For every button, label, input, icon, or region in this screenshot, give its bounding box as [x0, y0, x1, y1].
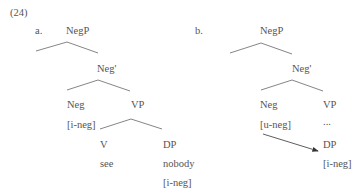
negp-branches-b	[230, 43, 292, 54]
tree-a-dp: DP	[163, 139, 176, 151]
negbar-branches-b	[261, 80, 323, 91]
tree-b-object-feature: [i-neg]	[323, 158, 352, 170]
tree-b-label: b.	[195, 25, 203, 37]
tree-b-negbar: Neg'	[292, 63, 311, 75]
agree-arrow	[263, 134, 318, 151]
negbar-branches-a	[67, 80, 130, 91]
tree-a-verb-word: see	[100, 158, 113, 170]
tree-b-dp: DP	[323, 139, 336, 151]
tree-a-negp: NegP	[66, 25, 89, 37]
tree-b-vp: VP	[323, 99, 336, 111]
tree-a-neg-feature: [i-neg]	[67, 119, 96, 131]
tree-b-ellipsis: ...	[323, 116, 331, 128]
tree-a-neg: Neg	[67, 99, 85, 111]
tree-a-vp: VP	[131, 99, 144, 111]
tree-b-neg-feature: [u-neg]	[260, 119, 291, 131]
tree-b-negp: NegP	[260, 25, 283, 37]
tree-b-neg: Neg	[260, 99, 278, 111]
tree-a-object-feature: [i-neg]	[163, 177, 192, 189]
example-number: (24)	[10, 7, 28, 19]
negp-branches-a	[36, 42, 98, 53]
tree-a-negbar: Neg'	[97, 63, 116, 75]
tree-a-label: a.	[35, 25, 42, 37]
tree-a-v: V	[100, 139, 108, 151]
vp-branches-a	[100, 119, 162, 129]
tree-a-object-word: nobody	[163, 158, 195, 170]
